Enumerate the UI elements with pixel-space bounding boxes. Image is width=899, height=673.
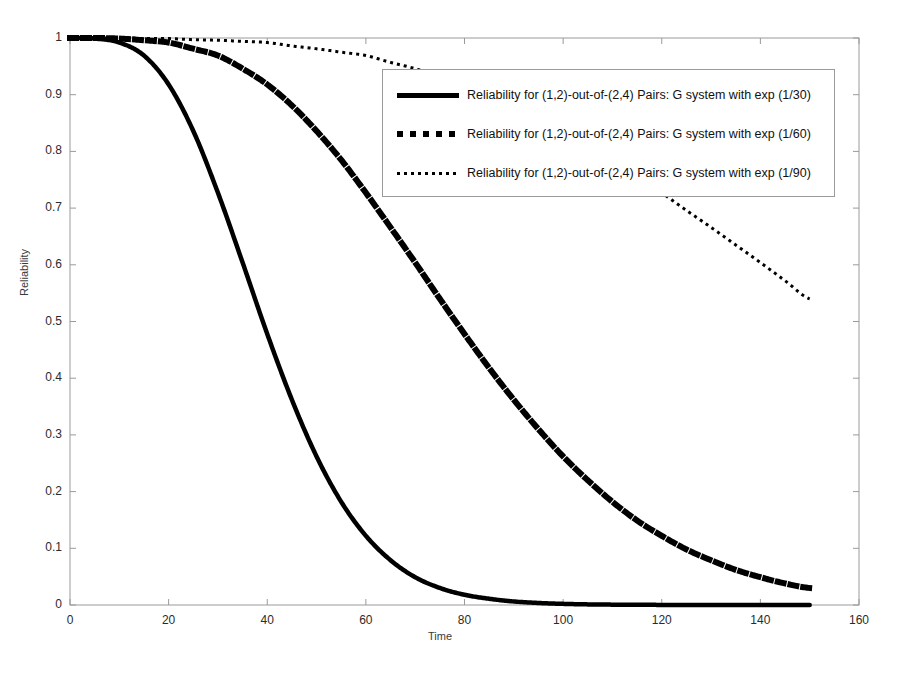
- legend-swatch-solid: [397, 88, 459, 102]
- x-tick-label: 140: [735, 613, 785, 627]
- x-tick-label: 80: [440, 613, 490, 627]
- y-tick-label: 0: [14, 597, 62, 611]
- chart-legend: Reliability for (1,2)-out-of-(2,4) Pairs…: [382, 69, 835, 197]
- legend-label: Reliability for (1,2)-out-of-(2,4) Pairs…: [467, 127, 811, 141]
- legend-label: Reliability for (1,2)-out-of-(2,4) Pairs…: [467, 166, 811, 180]
- x-axis-label: Time: [428, 630, 452, 642]
- y-tick-label: 0.4: [14, 370, 62, 384]
- y-tick-label: 1: [14, 30, 62, 44]
- x-tick-label: 160: [834, 613, 884, 627]
- y-tick-label: 0.5: [14, 314, 62, 328]
- x-tick-label: 0: [45, 613, 95, 627]
- y-tick-label: 0.2: [14, 484, 62, 498]
- y-axis-label: Reliability: [18, 249, 30, 296]
- x-tick-label: 120: [637, 613, 687, 627]
- x-tick-label: 100: [538, 613, 588, 627]
- legend-item[interactable]: Reliability for (1,2)-out-of-(2,4) Pairs…: [383, 158, 834, 188]
- y-tick-label: 0.8: [14, 143, 62, 157]
- legend-label: Reliability for (1,2)-out-of-(2,4) Pairs…: [467, 88, 811, 102]
- x-tick-label: 60: [341, 613, 391, 627]
- legend-swatch-dotted: [397, 166, 459, 180]
- y-tick-label: 0.3: [14, 427, 62, 441]
- x-tick-label: 40: [242, 613, 292, 627]
- legend-item[interactable]: Reliability for (1,2)-out-of-(2,4) Pairs…: [383, 119, 834, 149]
- legend-item[interactable]: Reliability for (1,2)-out-of-(2,4) Pairs…: [383, 80, 834, 110]
- x-tick-label: 20: [144, 613, 194, 627]
- reliability-chart-figure: 00.10.20.30.40.50.60.70.80.91 0204060801…: [0, 0, 899, 673]
- y-tick-label: 0.7: [14, 200, 62, 214]
- legend-swatch-dashed: [397, 127, 459, 141]
- y-tick-label: 0.9: [14, 87, 62, 101]
- y-tick-label: 0.1: [14, 540, 62, 554]
